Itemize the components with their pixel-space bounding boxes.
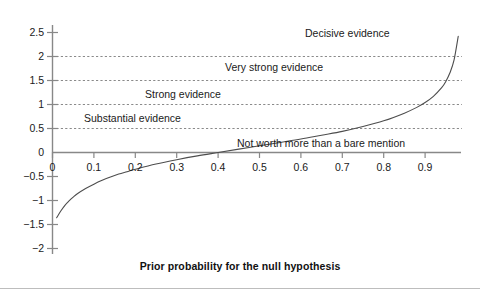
region-label-substantial: Substantial evidence (84, 113, 181, 124)
xtick-label-0_1: 0.1 (78, 162, 110, 173)
ytick-label-0_5: 0.5 (4, 123, 44, 134)
chart-figure: 2.5 2 1.5 1 0.5 0 −0.5 −1 −1.5 −2 0 0.1 … (0, 0, 480, 291)
ytick-label-2: 2 (4, 51, 44, 62)
region-label-bare-mention: Not worth more than a bare mention (237, 138, 405, 149)
region-label-very-strong: Very strong evidence (225, 62, 323, 73)
region-label-strong: Strong evidence (145, 89, 221, 100)
ytick-label-0: 0 (4, 147, 44, 158)
ytick-label-neg1: −1 (4, 195, 44, 206)
xtick-label-0_5: 0.5 (244, 162, 276, 173)
ytick-label-neg2: −2 (4, 243, 44, 254)
xtick-label-0_2: 0.2 (119, 162, 151, 173)
ytick-label-1: 1 (4, 99, 44, 110)
xtick-label-0: 0 (37, 162, 69, 173)
xtick-label-0_6: 0.6 (285, 162, 317, 173)
ytick-label-neg0_5: −0.5 (4, 171, 44, 182)
ytick-label-1_5: 1.5 (4, 75, 44, 86)
region-label-decisive: Decisive evidence (305, 28, 390, 39)
xtick-label-0_3: 0.3 (161, 162, 193, 173)
ytick-label-2_5: 2.5 (4, 27, 44, 38)
xtick-label-0_4: 0.4 (202, 162, 234, 173)
xtick-label-0_9: 0.9 (409, 162, 441, 173)
x-axis-title: Prior probability for the null hypothesi… (0, 261, 480, 272)
xtick-label-0_8: 0.8 (368, 162, 400, 173)
bottom-divider (0, 288, 480, 289)
ytick-label-neg1_5: −1.5 (4, 219, 44, 230)
xtick-label-0_7: 0.7 (326, 162, 358, 173)
